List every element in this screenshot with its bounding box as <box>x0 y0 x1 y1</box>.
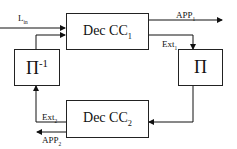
ext1-label: Ext1 <box>162 40 177 51</box>
lin-label: Lin <box>18 14 28 25</box>
interleaver-label: Π <box>194 57 207 78</box>
deinterleaver-label: Π-1 <box>26 57 48 79</box>
dec-cc1-label: Dec CC1 <box>83 23 132 41</box>
interleaver-block: Π <box>178 49 223 86</box>
app2-label: APP2 <box>42 136 61 147</box>
dec-cc2-label: Dec CC2 <box>83 110 132 128</box>
app1-label: APP1 <box>176 11 195 22</box>
deinterleaver-block: Π-1 <box>14 49 60 86</box>
dec-cc2-block: Dec CC2 <box>66 100 149 138</box>
turbo-decoder-diagram: Dec CC1 Π-1 Π Dec CC2 Lin APP1 Ext1 Ext2… <box>0 0 237 149</box>
ext2-label: Ext2 <box>42 113 57 124</box>
dec-cc1-block: Dec CC1 <box>66 13 149 50</box>
